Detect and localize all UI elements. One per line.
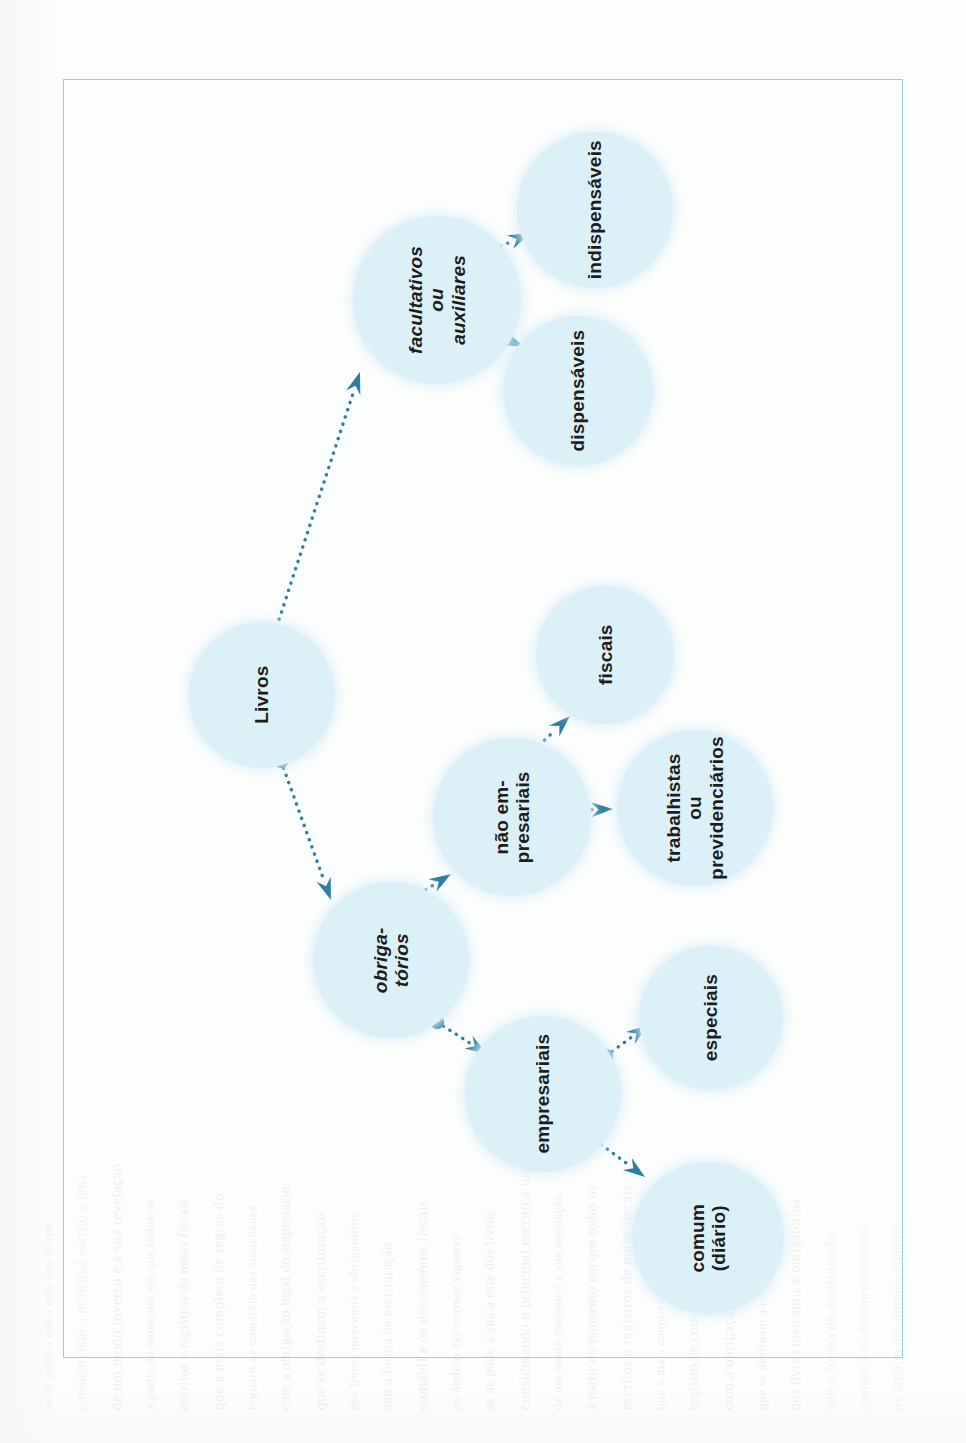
node-trabalhistas[interactable]: trabalhistas ou previdenciários: [617, 730, 773, 886]
node-especiais[interactable]: especiais: [639, 946, 783, 1090]
node-label-comum: comum (diário): [687, 1204, 730, 1273]
node-label-indispensaveis: indispensáveis: [584, 140, 605, 279]
node-nao_empresariais[interactable]: não em- presariais: [433, 738, 591, 896]
node-comum[interactable]: comum (diário): [632, 1162, 784, 1314]
node-label-dispensaveis: dispensáveis: [567, 330, 588, 452]
node-label-facultativos: facultativos ou auxiliares: [405, 246, 469, 354]
node-label-trabalhistas: trabalhistas ou previdenciários: [663, 736, 727, 879]
node-label-livros: Livros: [251, 666, 272, 724]
node-facultativos[interactable]: facultativos ou auxiliares: [353, 216, 521, 384]
node-label-nao_empresariais: não em- presariais: [491, 771, 534, 863]
node-empresariais[interactable]: empresariais: [465, 1016, 621, 1172]
node-livros[interactable]: Livros: [189, 622, 335, 768]
node-obrigatorios[interactable]: obriga- tórios: [313, 882, 469, 1038]
node-fiscais[interactable]: fiscais: [536, 586, 674, 724]
node-label-obrigatorios: obriga- tórios: [370, 927, 413, 993]
node-label-especiais: especiais: [700, 974, 721, 1061]
node-dispensaveis[interactable]: dispensáveis: [503, 316, 653, 466]
node-label-fiscais: fiscais: [594, 625, 615, 686]
node-indispensaveis[interactable]: indispensáveis: [517, 132, 673, 288]
node-label-empresariais: empresariais: [532, 1034, 553, 1154]
